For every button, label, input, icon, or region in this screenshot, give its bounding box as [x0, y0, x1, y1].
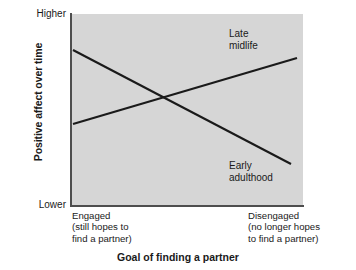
x-axis-title: Goal of finding a partner	[0, 251, 356, 263]
series-label-late-midlife: Late midlife	[229, 28, 258, 51]
x-tick-label-engaged: Engaged (still hopes to find a partner)	[72, 210, 132, 244]
chart-figure: Positive affect over time Higher Lower L…	[0, 0, 356, 270]
x-tick-label-disengaged: Disengaged (no longer hopes to find a pa…	[248, 210, 320, 244]
line-early-adulthood	[73, 50, 291, 164]
series-label-early-adulthood: Early adulthood	[229, 160, 273, 183]
